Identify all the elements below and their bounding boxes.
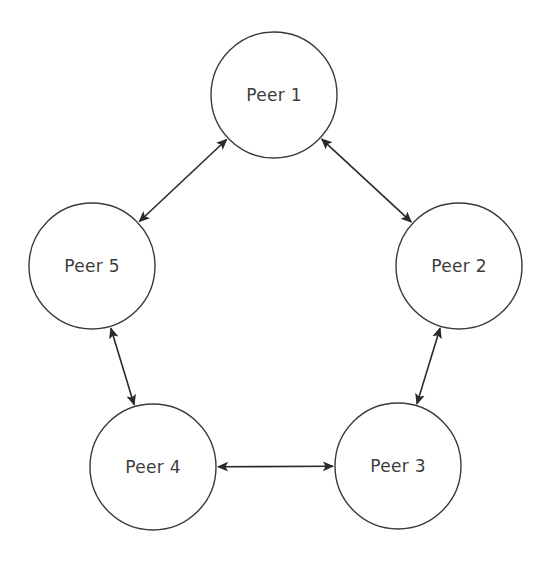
node-peer-4[interactable]: Peer 4 bbox=[90, 404, 216, 530]
peer-5-label: Peer 5 bbox=[64, 256, 120, 276]
peer-ring-diagram: Peer 1Peer 2Peer 3Peer 4Peer 5 bbox=[0, 0, 551, 566]
link-peer-5-peer-1 bbox=[139, 140, 226, 222]
node-peer-3[interactable]: Peer 3 bbox=[335, 403, 461, 529]
peer-1-label: Peer 1 bbox=[246, 85, 302, 105]
node-peer-5[interactable]: Peer 5 bbox=[29, 203, 155, 329]
nodes-layer: Peer 1Peer 2Peer 3Peer 4Peer 5 bbox=[29, 32, 522, 530]
diagram-canvas: Peer 1Peer 2Peer 3Peer 4Peer 5 bbox=[0, 0, 551, 566]
peer-3-label: Peer 3 bbox=[370, 456, 426, 476]
peer-2-label: Peer 2 bbox=[431, 256, 487, 276]
link-peer-1-peer-2 bbox=[322, 139, 412, 222]
node-peer-2[interactable]: Peer 2 bbox=[396, 203, 522, 329]
node-peer-1[interactable]: Peer 1 bbox=[211, 32, 337, 158]
link-peer-2-peer-3 bbox=[417, 328, 440, 404]
peer-4-label: Peer 4 bbox=[125, 457, 181, 477]
link-peer-4-peer-5 bbox=[111, 328, 134, 405]
